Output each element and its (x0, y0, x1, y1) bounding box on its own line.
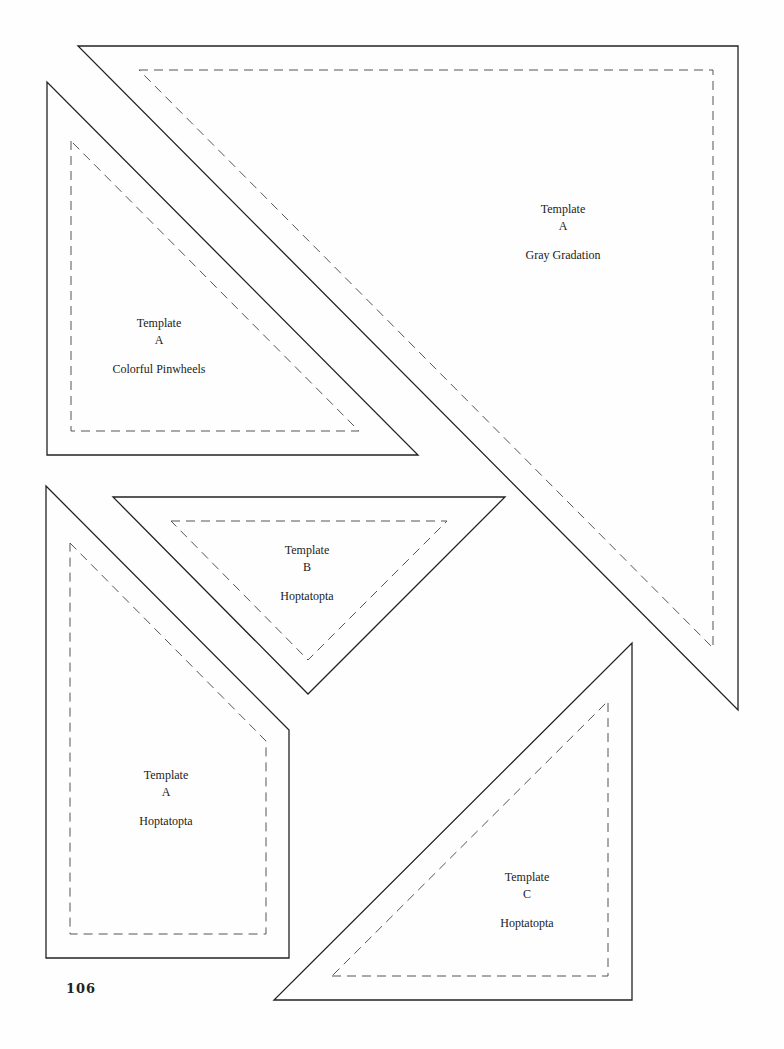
template-name: Hoptatopta (280, 588, 333, 605)
template-c-seam (332, 701, 608, 976)
template-c-outline (274, 643, 632, 1000)
template-name: Gray Gradation (526, 247, 601, 264)
template-big-a-seam (139, 70, 713, 648)
template-title: Template (500, 869, 553, 886)
template-title: Template (280, 542, 333, 559)
template-b-label: Template B Hoptatopta (280, 542, 333, 605)
template-name: Hoptatopta (139, 813, 192, 830)
template-big-a-outline (78, 46, 738, 710)
template-letter: A (526, 218, 601, 235)
template-pent-a-label: Template A Hoptatopta (139, 767, 192, 830)
page-number: 106 (66, 981, 96, 996)
template-pent-a-seam (70, 543, 266, 934)
template-title: Template (526, 201, 601, 218)
template-big-a-label: Template A Gray Gradation (526, 201, 601, 264)
template-name: Colorful Pinwheels (113, 361, 206, 378)
template-letter: A (113, 332, 206, 349)
template-letter: A (139, 784, 192, 801)
template-letter: B (280, 559, 333, 576)
pattern-page: Template A Gray Gradation Template A Col… (0, 0, 784, 1049)
template-title: Template (139, 767, 192, 784)
template-shapes (0, 0, 784, 1049)
template-c-label: Template C Hoptatopta (500, 869, 553, 932)
template-title: Template (113, 315, 206, 332)
template-left-a-outline (47, 82, 418, 455)
template-left-a-label: Template A Colorful Pinwheels (113, 315, 206, 378)
template-name: Hoptatopta (500, 915, 553, 932)
template-letter: C (500, 886, 553, 903)
template-pent-a-outline (46, 486, 289, 958)
